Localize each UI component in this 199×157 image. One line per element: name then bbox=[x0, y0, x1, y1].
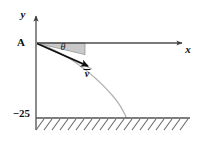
y-axis-label: y bbox=[19, 8, 26, 20]
trajectory-curve bbox=[36, 43, 127, 118]
ground-hatching bbox=[36, 119, 188, 130]
angle-theta-label: θ bbox=[61, 41, 66, 52]
x-axis-label: x bbox=[184, 43, 191, 55]
velocity-label: v bbox=[85, 68, 90, 79]
y-tick-label-minus25: −25 bbox=[13, 107, 31, 119]
point-a-label: A bbox=[17, 36, 25, 48]
figure-canvas: y x A θ v −25 bbox=[0, 0, 199, 157]
projectile-motion-figure: y x A θ v −25 bbox=[0, 0, 199, 157]
